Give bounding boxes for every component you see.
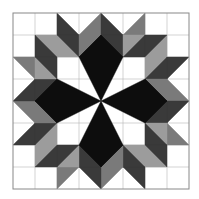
quilt-pieces [13, 13, 189, 189]
quilt-block [0, 0, 199, 199]
